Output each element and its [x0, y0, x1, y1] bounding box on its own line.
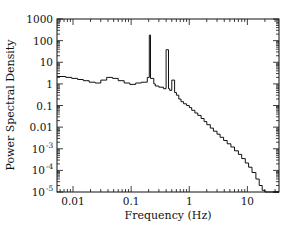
- y-tick-label: 10: [32, 186, 45, 198]
- x-tick-label: 0.01: [61, 195, 84, 207]
- x-tick-label: 1: [186, 195, 193, 207]
- major-ticks: [57, 19, 279, 192]
- x-tick-label: 10: [241, 195, 254, 207]
- y-tick-label: 1000: [26, 13, 53, 25]
- y-tick-exponent: -4: [46, 162, 54, 171]
- x-tick-label: 0.1: [123, 195, 140, 207]
- x-axis-title: Frequency (Hz): [125, 209, 212, 222]
- minor-ticks: [57, 19, 279, 192]
- x-tick-labels: 0.010.1110: [61, 195, 254, 207]
- plot-frame: [57, 19, 279, 192]
- y-tick-label: 10: [40, 56, 53, 68]
- y-tick-label: 100: [33, 35, 53, 47]
- y-tick-label: 0.1: [36, 100, 53, 112]
- y-tick-exponent: -3: [46, 141, 54, 150]
- psd-chart: 0.010.1110 10001001010.10.0110-310-410-5…: [0, 0, 293, 234]
- y-tick-label: 10: [32, 143, 45, 155]
- y-axis-title: Power Spectral Density: [4, 39, 17, 171]
- y-tick-label: 0.01: [30, 121, 53, 133]
- y-tick-label: 10: [32, 164, 45, 176]
- y-tick-label: 1: [46, 78, 53, 90]
- y-tick-exponent: -5: [46, 184, 54, 193]
- psd-step-line: [57, 35, 279, 192]
- y-tick-labels: 10001001010.10.0110-310-410-5: [26, 13, 53, 198]
